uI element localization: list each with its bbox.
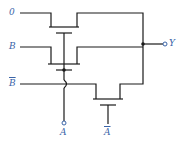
output-label-Y: Y <box>169 39 175 48</box>
input-label-A-bar: A <box>104 128 111 137</box>
wire-t2-to-rail <box>77 47 143 64</box>
circuit-diagram: 0 B B A A Y <box>0 0 185 144</box>
input-label-B: B <box>9 42 16 51</box>
junction-dot-gate <box>62 68 66 72</box>
wire-t3-to-rail <box>120 44 143 99</box>
input-terminal-A <box>62 121 66 125</box>
input-label-0: 0 <box>9 8 15 17</box>
wire-t1-to-rail <box>77 13 143 44</box>
input-label-A: A <box>60 128 67 137</box>
input-label-B-bar: B <box>9 79 16 88</box>
output-terminal <box>163 42 167 46</box>
wire-B-to-t2 <box>20 47 51 64</box>
wire-Bbar-to-t3 <box>20 84 96 99</box>
wire-0-to-t1 <box>20 13 51 27</box>
circuit-wires <box>0 0 185 144</box>
junction-dot-output <box>141 42 145 46</box>
